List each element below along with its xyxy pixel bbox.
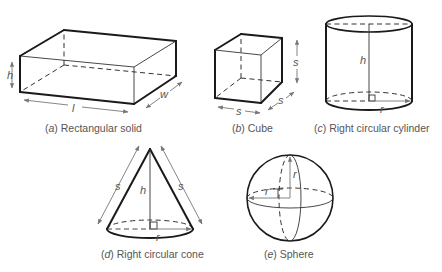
caption-right-circular-cylinder: (c) Right circular cylinder: [314, 122, 430, 134]
label-s-height: s: [293, 56, 299, 68]
label-h: h: [360, 54, 366, 66]
label-s-right: s: [178, 180, 184, 192]
right-circular-cylinder: h r: [326, 16, 412, 115]
caption-sphere: (e) Sphere: [264, 248, 314, 260]
rectangular-solid: h l w: [7, 30, 182, 114]
sphere: r r: [247, 155, 333, 241]
label-r-vertical: r: [293, 168, 298, 180]
label-w: w: [160, 88, 169, 100]
label-s-depth: s: [278, 94, 284, 106]
right-circular-cone: s s h r: [98, 146, 202, 243]
label-s-front: s: [236, 105, 242, 117]
label-s-left: s: [115, 180, 121, 192]
geometric-solids-diagram: h l w s s s: [0, 0, 442, 272]
caption-right-circular-cone: (d) Right circular cone: [101, 248, 204, 260]
label-l: l: [72, 102, 75, 114]
caption-rectangular-solid: (a) Rectangular solid: [45, 122, 142, 134]
label-r-horizontal: r: [265, 185, 270, 197]
label-h: h: [140, 184, 146, 196]
cube: s s s: [215, 34, 299, 117]
label-h: h: [7, 69, 13, 81]
caption-cube: (b) Cube: [232, 122, 273, 134]
